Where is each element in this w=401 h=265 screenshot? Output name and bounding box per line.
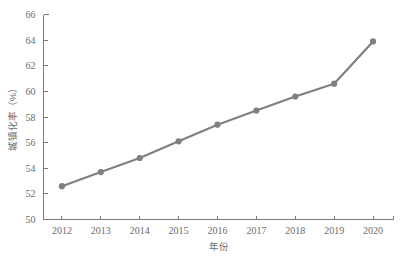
chart-canvas: 5052545658606264662012201320142015201620… <box>0 0 401 265</box>
y-axis-title: 城镇化率（%） <box>7 83 18 151</box>
data-point-marker[interactable] <box>253 107 259 113</box>
data-point-marker[interactable] <box>176 138 182 144</box>
data-point-marker[interactable] <box>292 93 298 99</box>
data-point-marker[interactable] <box>370 38 376 44</box>
x-tick-label: 2015 <box>169 225 189 236</box>
y-tick-label: 54 <box>26 163 36 174</box>
x-tick-label: 2019 <box>324 225 344 236</box>
y-tick-label: 56 <box>26 137 36 148</box>
y-tick-label: 60 <box>26 86 36 97</box>
data-point-marker[interactable] <box>98 169 104 175</box>
y-tick-label: 50 <box>26 214 36 225</box>
y-tick-label: 64 <box>26 35 36 46</box>
x-axis-title: 年份 <box>209 241 229 252</box>
x-tick-label: 2016 <box>208 225 228 236</box>
x-tick-label: 2013 <box>91 225 111 236</box>
x-tick-label: 2018 <box>285 225 305 236</box>
y-tick-label: 66 <box>26 9 36 20</box>
x-tick-label: 2017 <box>246 225 266 236</box>
series-line-urbanization-rate <box>62 41 373 186</box>
y-tick-label: 52 <box>26 188 36 199</box>
y-tick-label: 58 <box>26 112 36 123</box>
data-point-marker[interactable] <box>214 122 220 128</box>
x-tick-label: 2014 <box>130 225 150 236</box>
y-tick-label: 62 <box>26 60 36 71</box>
data-point-marker[interactable] <box>331 81 337 87</box>
data-point-marker[interactable] <box>59 183 65 189</box>
data-point-marker[interactable] <box>137 155 143 161</box>
line-chart: 5052545658606264662012201320142015201620… <box>0 0 401 265</box>
x-tick-label: 2012 <box>52 225 72 236</box>
x-tick-label: 2020 <box>363 225 383 236</box>
